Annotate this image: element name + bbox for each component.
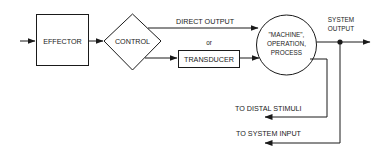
to-system-input-label: TO SYSTEM INPUT — [236, 129, 302, 138]
direct-output-label: DIRECT OUTPUT — [176, 17, 235, 26]
machine-label-line1: "MACHINE", — [269, 31, 305, 38]
control-node: CONTROL — [104, 14, 161, 70]
effector-label: EFFECTOR — [43, 37, 82, 46]
machine-label-line2: OPERATION, — [267, 40, 306, 47]
machine-process-node: "MACHINE", OPERATION, PROCESS — [257, 15, 317, 75]
effector-node: EFFECTOR — [37, 15, 89, 66]
system-output-label-line1: SYSTEM — [328, 16, 354, 23]
machine-label-line3: PROCESS — [271, 49, 302, 56]
to-distal-stimuli-label: TO DISTAL STIMULI — [235, 104, 302, 113]
control-label: CONTROL — [115, 37, 150, 46]
transducer-node: TRANSDUCER — [179, 51, 240, 68]
system-output-label-line2: OUTPUT — [328, 25, 354, 32]
transducer-label: TRANSDUCER — [184, 55, 234, 64]
or-label: or — [206, 39, 213, 46]
effector-control-diagram: EFFECTOR CONTROL DIRECT OUTPUT or TRANSD… — [0, 0, 384, 161]
